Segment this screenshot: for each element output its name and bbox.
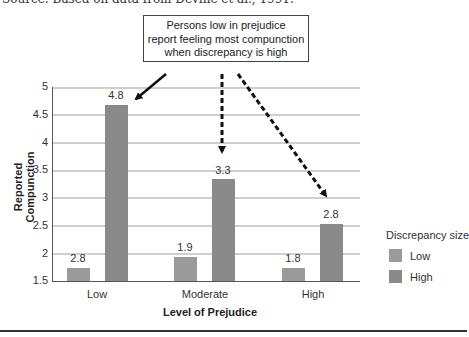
bottom-rule (0, 330, 467, 332)
solid-arrow-icon (136, 74, 166, 99)
dashed-arrow-icon (238, 74, 326, 196)
